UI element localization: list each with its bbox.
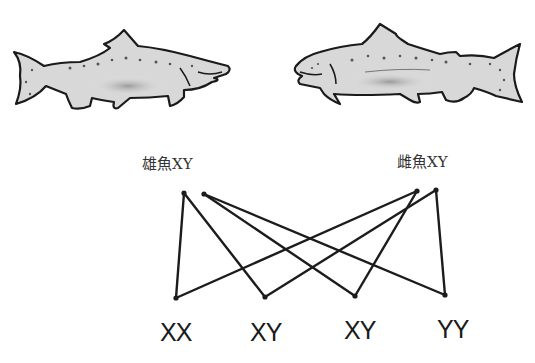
cross-line [176, 191, 417, 298]
offspring-label-yy: YY [437, 315, 468, 344]
offspring-label-xy-2: XY [344, 316, 375, 345]
female-parent-label: 雌魚XY [397, 150, 448, 171]
diagram-canvas [0, 0, 535, 363]
offspring-label-xx: XX [160, 318, 191, 347]
cross-lines [176, 190, 445, 298]
junction-dot [181, 190, 186, 195]
gamete-points [173, 187, 447, 300]
male-fish-illustration [14, 30, 230, 109]
junction-dot [262, 294, 267, 299]
genetic-cross-diagram: 雄魚XY 雌魚XY XX XY XY YY [0, 0, 535, 363]
cross-line [436, 190, 445, 295]
junction-dot [433, 187, 438, 192]
female-fish-illustration [295, 24, 522, 104]
offspring-label-xy-1: XY [250, 318, 281, 347]
junction-dot [173, 295, 178, 300]
cross-line [204, 194, 445, 295]
junction-dot [201, 191, 206, 196]
junction-dot [442, 292, 447, 297]
cross-line [204, 194, 355, 296]
cross-line [176, 193, 184, 298]
male-parent-label: 雄魚XY [142, 152, 193, 173]
junction-dot [352, 293, 357, 298]
junction-dot [414, 188, 419, 193]
